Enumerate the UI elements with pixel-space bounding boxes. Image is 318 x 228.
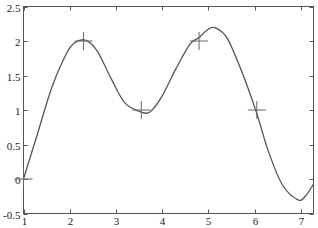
x-tick-label: 5 — [206, 215, 212, 227]
y-tick-label: 2 — [15, 36, 21, 48]
x-tick-label: 2 — [68, 215, 74, 227]
plot-area-frame — [24, 7, 314, 214]
chart-canvas: 1234567-0.500.511.522.5 — [0, 0, 318, 228]
axis-tick-labels: 1234567-0.500.511.522.5 — [3, 2, 305, 228]
y-tick-label: 0.5 — [7, 140, 21, 152]
y-tick-label: 2.5 — [7, 2, 21, 14]
y-tick-label: 1 — [15, 105, 21, 117]
y-tick-label: 1.5 — [7, 71, 21, 83]
x-tick-label: 6 — [253, 215, 259, 227]
x-tick-label: 4 — [160, 215, 166, 227]
axis-ticks — [24, 7, 314, 215]
x-tick-label: 1 — [22, 215, 28, 227]
x-tick-label: 3 — [114, 215, 120, 227]
spline-curve — [24, 27, 314, 200]
x-tick-label: 7 — [299, 215, 305, 227]
data-point-markers — [15, 32, 266, 188]
y-tick-label: -0.5 — [3, 209, 21, 221]
